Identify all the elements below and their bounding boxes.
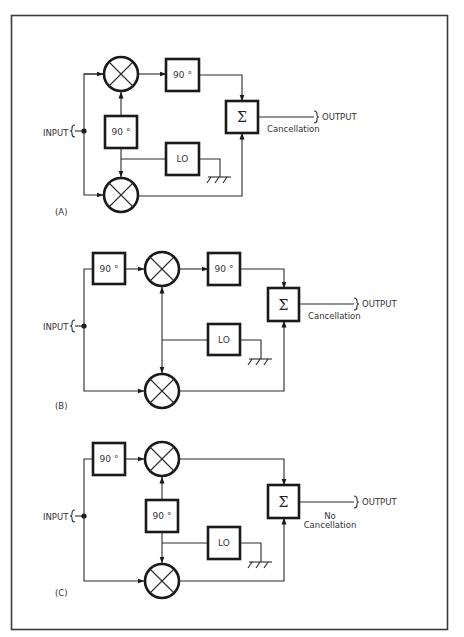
output-label: OUTPUT xyxy=(362,497,397,507)
ground-icon xyxy=(248,359,272,365)
output-label: OUTPUT xyxy=(362,299,397,309)
bottom-mixer xyxy=(104,178,138,212)
lo-label: LO xyxy=(177,154,189,164)
input-label: INPUT xyxy=(43,322,69,332)
phase-shift-label: 90 ° xyxy=(215,264,234,274)
sigma-label: Σ xyxy=(279,297,289,313)
sigma-label: Σ xyxy=(279,494,289,510)
top-mixer xyxy=(104,57,138,91)
panel-c: INPUT 90 ° 90 ° LO xyxy=(43,442,397,598)
ground-icon xyxy=(207,177,231,183)
panel-label: (B) xyxy=(55,401,67,411)
mixer-diagram: INPUT 90 ° LO xyxy=(0,0,464,637)
bottom-mixer xyxy=(145,564,179,598)
phase-shift-label: 90 ° xyxy=(112,127,131,137)
output-brace-icon xyxy=(354,298,359,310)
lo-label: LO xyxy=(218,335,230,345)
top-mixer xyxy=(145,252,179,286)
result-label-line2: Cancellation xyxy=(304,520,357,530)
panel-b: INPUT 90 ° LO xyxy=(43,252,397,411)
panel-a: INPUT 90 ° LO xyxy=(43,57,357,217)
output-label: OUTPUT xyxy=(322,112,357,122)
top-mixer xyxy=(145,442,179,476)
ground-icon xyxy=(248,562,272,568)
input-brace-icon xyxy=(70,510,75,522)
bottom-mixer xyxy=(145,374,179,408)
panel-label: (C) xyxy=(55,588,68,598)
sigma-label: Σ xyxy=(237,109,247,125)
phase-shift-label: 90 ° xyxy=(173,70,192,80)
output-brace-icon xyxy=(354,496,359,508)
result-label: Cancellation xyxy=(308,311,361,321)
input-brace-icon xyxy=(70,125,75,137)
phase-shift-label: 90 ° xyxy=(100,264,119,274)
panel-label: (A) xyxy=(55,207,67,217)
phase-shift-label: 90 ° xyxy=(153,511,172,521)
input-label: INPUT xyxy=(43,128,69,138)
input-label: INPUT xyxy=(43,512,69,522)
input-brace-icon xyxy=(70,320,75,332)
lo-label: LO xyxy=(218,538,230,548)
output-brace-icon xyxy=(314,111,319,123)
result-label: Cancellation xyxy=(267,124,320,134)
phase-shift-label: 90 ° xyxy=(100,454,119,464)
